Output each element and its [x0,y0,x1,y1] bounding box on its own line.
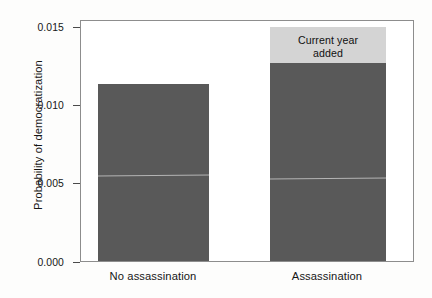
bar-no-assassination[interactable] [98,84,209,261]
y-tick-label-2: 0.010 [20,100,64,111]
annotation-line-2: added [313,47,343,59]
y-axis-ticks: 0.000 0.005 0.010 0.015 [12,0,64,298]
y-tick-label-0: 0.000 [20,257,64,268]
y-tick-mark-3 [73,27,80,28]
annotation-line-1: Current year [298,34,358,46]
bar-segment-base-0 [98,84,209,261]
y-tick-label-3: 0.015 [20,22,64,33]
x-tick-label-assassination: Assassination [292,270,362,282]
bar-segment-base-1 [270,63,386,261]
bar-annotation-current-year-added: Current year added [270,34,386,59]
y-tick-label-1: 0.005 [20,178,64,189]
x-tick-label-no-assassination: No assassination [110,270,197,282]
y-tick-mark-0 [73,262,80,263]
y-tick-mark-2 [73,105,80,106]
y-tick-mark-1 [73,183,80,184]
bar-assassination[interactable]: Current year added [270,27,386,261]
bar-segment-current-year-added: Current year added [270,27,386,63]
chart-figure: Probability of democratization 0.000 0.0… [0,0,432,298]
plot-area: Current year added [80,20,414,262]
